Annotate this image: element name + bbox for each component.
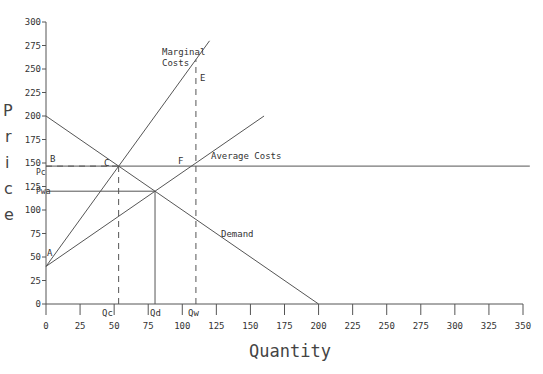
y-axis-title-r: r <box>5 127 12 146</box>
economics-chart: 0255075100125150175200225250275300325350… <box>0 0 543 374</box>
demand-label: Demand <box>221 229 254 239</box>
x-tick-label: 0 <box>43 321 48 331</box>
y-tick-label: 175 <box>25 135 41 145</box>
y-axis-title-c: c <box>4 179 13 198</box>
mc-label-2: Costs <box>162 58 189 68</box>
y-tick-label: 0 <box>36 299 41 309</box>
ac-label: Average Costs <box>211 151 281 161</box>
y-tick-label: 50 <box>30 252 41 262</box>
x-tick-label: 225 <box>345 321 361 331</box>
axes: 0255075100125150175200225250275300325350… <box>25 17 531 331</box>
y-tick-label: 275 <box>25 41 41 51</box>
x-tick-label: 125 <box>208 321 224 331</box>
mc-label-1: Marginal <box>162 47 205 57</box>
y-axis-title-e: e <box>4 205 14 224</box>
point-a: A <box>47 248 53 258</box>
pc-label: Pc <box>36 168 46 177</box>
y-tick-label: 75 <box>30 229 41 239</box>
y-tick-label: 300 <box>25 17 41 27</box>
labels: Marginal Costs Average Costs Demand A B … <box>3 47 331 361</box>
y-tick-label: 100 <box>25 205 41 215</box>
x-tick-label: 350 <box>515 321 531 331</box>
x-tick-label: 75 <box>143 321 154 331</box>
point-c: C <box>104 158 109 168</box>
y-tick-label: 200 <box>25 111 41 121</box>
x-tick-label: 175 <box>276 321 292 331</box>
x-tick-label: 150 <box>242 321 258 331</box>
y-tick-label: 250 <box>25 64 41 74</box>
x-tick-label: 200 <box>310 321 326 331</box>
x-tick-label: 25 <box>75 321 86 331</box>
x-tick-label: 300 <box>447 321 463 331</box>
x-tick-label: 250 <box>379 321 395 331</box>
y-tick-label: 150 <box>25 158 41 168</box>
point-e: E <box>200 73 205 83</box>
y-tick-label: 25 <box>30 276 41 286</box>
y-axis-title-p: P <box>3 101 13 120</box>
x-tick-label: 325 <box>481 321 497 331</box>
qc-label: Qc <box>102 308 113 318</box>
qw-label: Qw <box>188 308 199 318</box>
y-axis-title-i: i <box>5 153 9 172</box>
pwa-label: Pwa <box>36 187 51 196</box>
point-f: F <box>178 156 183 166</box>
x-tick-label: 275 <box>413 321 429 331</box>
marginal-costs-line <box>46 41 210 267</box>
y-tick-label: 225 <box>25 88 41 98</box>
qd-label: Qd <box>150 308 161 318</box>
x-tick-label: 100 <box>174 321 190 331</box>
point-b: B <box>50 154 55 164</box>
x-axis-title: Quantity <box>249 341 331 361</box>
curves <box>46 41 530 304</box>
x-tick-label: 50 <box>109 321 120 331</box>
